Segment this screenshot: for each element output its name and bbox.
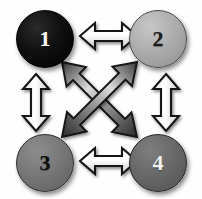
arrow-left-vertical xyxy=(23,74,49,131)
node-label-1: 1 xyxy=(40,28,51,50)
node-circle-1[interactable]: 1 xyxy=(16,10,74,68)
diagram-canvas: 1 2 3 4 xyxy=(0,0,202,199)
node-circle-3[interactable]: 3 xyxy=(16,134,74,192)
node-label-4: 4 xyxy=(153,152,164,174)
node-label-2: 2 xyxy=(153,28,164,50)
node-circle-2[interactable]: 2 xyxy=(129,10,187,68)
node-circle-4[interactable]: 4 xyxy=(129,134,187,192)
arrow-right-vertical xyxy=(153,74,179,131)
node-label-3: 3 xyxy=(40,152,51,174)
